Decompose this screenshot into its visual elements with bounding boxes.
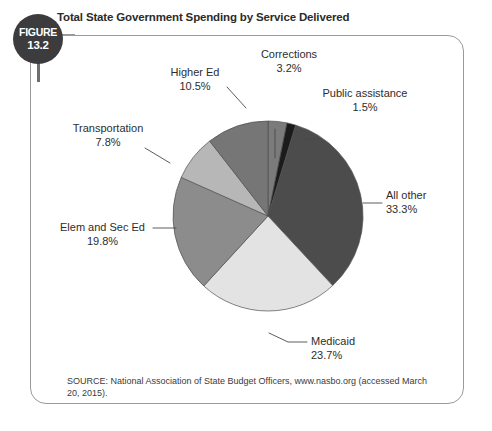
slice-label-elem-sec-ed-pct: 19.8% bbox=[50, 235, 155, 249]
slice-label-corrections-name: Corrections bbox=[261, 48, 317, 60]
slice-label-all-other: All other 33.3% bbox=[386, 189, 486, 216]
slice-label-medicaid-pct: 23.7% bbox=[311, 349, 421, 363]
slice-label-public-assistance-pct: 1.5% bbox=[310, 101, 420, 115]
slice-label-transportation-pct: 7.8% bbox=[58, 136, 158, 150]
figure-title: Total State Government Spending by Servi… bbox=[57, 11, 457, 23]
slice-label-medicaid: Medicaid 23.7% bbox=[311, 335, 421, 362]
slice-label-all-other-name: All other bbox=[386, 189, 426, 201]
slice-label-corrections: Corrections 3.2% bbox=[234, 48, 344, 75]
figure-panel: Total State Government Spending by Servi… bbox=[0, 0, 492, 431]
pie-slice-group bbox=[173, 121, 363, 311]
slice-label-elem-sec-ed: Elem and Sec Ed 19.8% bbox=[50, 221, 155, 248]
slice-label-higher-ed-pct: 10.5% bbox=[145, 80, 245, 94]
slice-label-corrections-pct: 3.2% bbox=[234, 62, 344, 76]
slice-label-public-assistance: Public assistance 1.5% bbox=[310, 87, 420, 114]
leader-line-medicaid bbox=[269, 333, 307, 342]
slice-label-transportation: Transportation 7.8% bbox=[58, 122, 158, 149]
slice-label-higher-ed: Higher Ed 10.5% bbox=[145, 66, 245, 93]
slice-label-elem-sec-ed-name: Elem and Sec Ed bbox=[60, 221, 145, 233]
leader-line-transportation bbox=[145, 148, 170, 163]
source-note: SOURCE: National Association of State Bu… bbox=[67, 375, 427, 399]
slice-label-transportation-name: Transportation bbox=[73, 122, 144, 134]
slice-label-higher-ed-name: Higher Ed bbox=[171, 66, 220, 78]
slice-label-all-other-pct: 33.3% bbox=[386, 203, 486, 217]
slice-label-medicaid-name: Medicaid bbox=[311, 335, 355, 347]
slice-label-public-assistance-name: Public assistance bbox=[323, 87, 408, 99]
